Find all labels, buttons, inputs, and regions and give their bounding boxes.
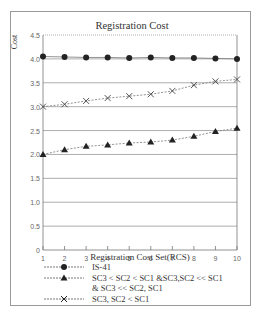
- legend: IS-41 SC3 < SC2 < SC1 &SC3,SC2 << SC1 & …: [44, 262, 244, 305]
- svg-text:3.0: 3.0: [30, 104, 40, 111]
- svg-text:2: 2: [63, 255, 67, 262]
- svg-text:3: 3: [84, 255, 88, 262]
- cross-marker-icon: [44, 294, 86, 304]
- legend-label: SC3, SC2 < SC1: [92, 294, 149, 304]
- axes: 00.51.01.52.02.53.03.54.04.512345678910: [30, 32, 241, 262]
- svg-text:2.5: 2.5: [30, 128, 40, 135]
- svg-text:4.5: 4.5: [30, 32, 40, 39]
- svg-text:1.5: 1.5: [30, 175, 40, 182]
- svg-text:2.0: 2.0: [30, 151, 40, 158]
- svg-text:4.0: 4.0: [30, 56, 40, 63]
- legend-item-is41: IS-41: [44, 262, 244, 272]
- svg-text:9: 9: [213, 255, 217, 262]
- legend-item-cross-series: SC3, SC2 < SC1: [44, 294, 244, 304]
- data-series: [40, 54, 241, 157]
- legend-label: IS-41: [92, 262, 111, 272]
- legend-label: SC3 < SC2 < SC1 &SC3,SC2 << SC1 & SC3 <<…: [92, 273, 223, 293]
- circle-marker-icon: [44, 262, 86, 272]
- svg-text:3.5: 3.5: [30, 80, 40, 87]
- chart-title: Registration Cost: [95, 20, 168, 31]
- legend-item-triangle-series: SC3 < SC2 < SC1 &SC3,SC2 << SC1 & SC3 <<…: [44, 273, 244, 293]
- svg-text:10: 10: [233, 255, 241, 262]
- svg-text:8: 8: [192, 255, 196, 262]
- svg-text:0: 0: [36, 247, 40, 254]
- triangle-marker-icon: [44, 273, 86, 283]
- x-axis-label: Registration Cost Set(RCS): [90, 252, 190, 262]
- grid-lines: [43, 35, 237, 226]
- svg-text:1: 1: [41, 255, 45, 262]
- svg-text:1.0: 1.0: [30, 199, 40, 206]
- svg-text:0.5: 0.5: [30, 223, 40, 230]
- y-axis-label: Cost: [10, 34, 19, 49]
